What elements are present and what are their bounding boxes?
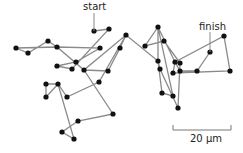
trajectory-point xyxy=(25,50,30,55)
trajectory-point xyxy=(161,38,166,43)
trajectory-point xyxy=(13,45,18,50)
trajectory-point xyxy=(45,38,50,43)
start-label: start xyxy=(83,2,106,12)
trajectory-point xyxy=(142,43,147,48)
trajectory-point xyxy=(64,94,69,99)
trajectory-point xyxy=(177,60,182,65)
trajectory-point xyxy=(55,81,60,86)
scale-bar xyxy=(173,125,231,130)
trajectory-point xyxy=(105,68,110,73)
scale-bar-label: 20 µm xyxy=(190,134,222,144)
trajectory-point xyxy=(157,66,162,71)
trajectory-point xyxy=(97,45,102,50)
trajectory-point xyxy=(159,90,164,95)
trajectory-point xyxy=(155,24,160,29)
trajectory-point xyxy=(110,111,115,116)
trajectory-point xyxy=(69,66,74,71)
trajectory-point xyxy=(43,94,48,99)
trajectory-point xyxy=(75,118,80,123)
trajectory-point xyxy=(43,81,48,86)
trajectory-point xyxy=(117,45,122,50)
trajectory-point xyxy=(59,129,64,134)
trajectory-point xyxy=(155,58,160,63)
trajectory-point xyxy=(123,32,128,37)
trajectory-point xyxy=(172,59,177,64)
trajectory-point xyxy=(227,68,232,73)
trajectory-point xyxy=(221,33,226,38)
trajectory-point xyxy=(73,59,78,64)
trajectory-point xyxy=(71,136,76,141)
trajectory-point xyxy=(106,26,111,31)
trajectory-point xyxy=(54,63,59,68)
trajectory-point xyxy=(194,68,199,73)
trajectory-point xyxy=(54,44,59,49)
trajectory-point xyxy=(177,68,182,73)
trajectory-point xyxy=(81,67,86,72)
trajectory-point xyxy=(170,93,175,98)
trajectory-point xyxy=(170,70,175,75)
trajectory-point xyxy=(96,79,101,84)
finish-label: finish xyxy=(199,22,226,32)
trajectory-point xyxy=(175,105,180,110)
